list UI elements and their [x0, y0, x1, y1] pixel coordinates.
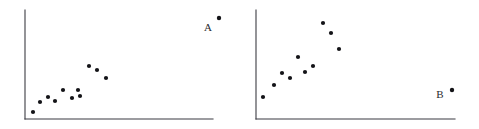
data-point — [87, 64, 91, 68]
data-point — [261, 95, 265, 99]
data-point — [288, 76, 292, 80]
plot-a-label: A — [204, 21, 212, 33]
data-point — [38, 100, 42, 104]
data-point — [61, 88, 65, 92]
plot-b: B — [256, 10, 455, 119]
data-point — [311, 64, 315, 68]
plot-panels-container: A B — [0, 0, 479, 129]
plot-a: A — [25, 10, 221, 119]
data-point — [337, 47, 341, 51]
data-point — [78, 94, 82, 98]
figure-canvas: A B — [0, 0, 479, 129]
plot-b-data-points — [261, 21, 341, 99]
data-point — [280, 71, 284, 75]
plot-a-outlier-point — [217, 16, 221, 20]
data-point — [296, 55, 300, 59]
data-point — [321, 21, 325, 25]
data-point — [95, 68, 99, 72]
data-point — [303, 70, 307, 74]
data-point — [329, 31, 333, 35]
data-point — [76, 88, 80, 92]
data-point — [272, 83, 276, 87]
data-point — [53, 99, 57, 103]
data-point — [104, 76, 108, 80]
plot-b-outlier-point — [450, 88, 454, 92]
data-point — [70, 96, 74, 100]
data-point — [31, 110, 35, 114]
plot-a-data-points — [31, 64, 108, 114]
plot-b-label: B — [436, 88, 443, 100]
data-point — [46, 95, 50, 99]
scatter-plot-figure: A B — [0, 0, 479, 129]
